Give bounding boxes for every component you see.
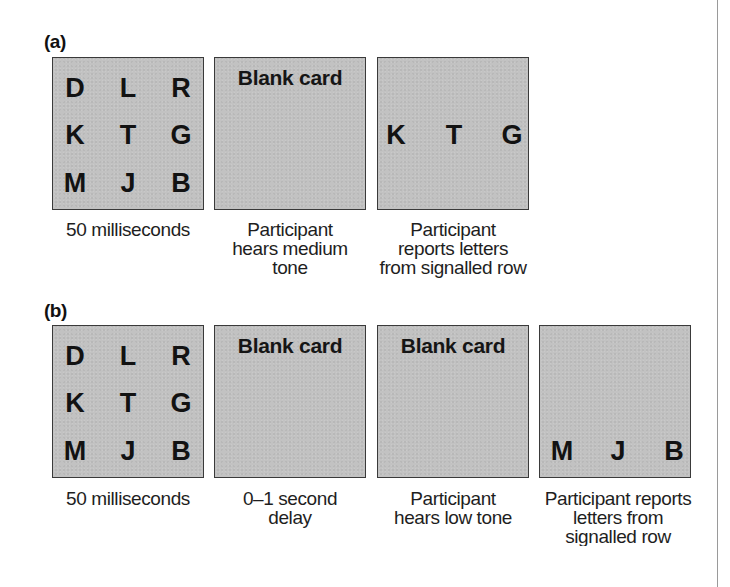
letter: G <box>169 120 193 150</box>
letter-row-top: D L R <box>63 341 193 371</box>
letter-row-bottom: M J B <box>63 168 193 198</box>
letter: G <box>169 388 193 418</box>
letter: L <box>116 341 140 371</box>
caption-delay: 0–1 second delay <box>204 489 376 527</box>
letter-row-bottom: M J B <box>63 436 193 466</box>
caption-line: signalled row <box>525 527 711 546</box>
reported-letter-row: K T G <box>384 120 524 150</box>
page-divider-line <box>717 0 718 587</box>
caption-low-tone: Participant hears low tone <box>367 489 539 527</box>
letter: R <box>169 341 193 371</box>
letter: D <box>63 73 87 103</box>
panel-label-a: (a) <box>44 31 66 53</box>
blank-card: Blank card <box>214 57 366 210</box>
caption-report: Participant reports letters from signall… <box>362 220 544 277</box>
caption-line: 50 milliseconds <box>52 220 204 239</box>
letter-array-card: D L R K T G M J B <box>52 325 204 478</box>
report-card: K T G <box>377 57 529 210</box>
panel-label-b: (b) <box>44 300 67 322</box>
letter: J <box>116 436 140 466</box>
caption-line: Participant <box>362 220 544 239</box>
letter: J <box>116 168 140 198</box>
letter-row-top: D L R <box>63 73 193 103</box>
letter: T <box>442 120 466 150</box>
caption-line: letters from <box>525 508 711 527</box>
letter: R <box>169 73 193 103</box>
letter: K <box>384 120 408 150</box>
letter: K <box>63 120 87 150</box>
caption-line: from signalled row <box>362 258 544 277</box>
caption-line: tone <box>204 258 376 277</box>
letter: B <box>662 436 686 466</box>
caption-line: reports letters <box>362 239 544 258</box>
caption-line: delay <box>204 508 376 527</box>
blank-card-title: Blank card <box>378 334 528 358</box>
letter: L <box>116 73 140 103</box>
letter-row-middle: K T G <box>63 120 193 150</box>
reported-letter-row: M J B <box>550 436 686 466</box>
letter: B <box>169 436 193 466</box>
report-card: M J B <box>539 325 691 478</box>
letter: T <box>116 120 140 150</box>
letter: M <box>550 436 574 466</box>
caption-line: Participant <box>367 489 539 508</box>
letter-row-middle: K T G <box>63 388 193 418</box>
letter-array-card: D L R K T G M J B <box>52 57 204 210</box>
letter: D <box>63 341 87 371</box>
caption-duration: 50 milliseconds <box>52 220 204 239</box>
caption-line: 50 milliseconds <box>52 489 204 508</box>
blank-card: Blank card <box>214 325 366 478</box>
caption-line: Participant reports <box>525 489 711 508</box>
letter: T <box>116 388 140 418</box>
caption-medium-tone: Participant hears medium tone <box>204 220 376 277</box>
caption-line: Participant <box>204 220 376 239</box>
caption-report: Participant reports letters from signall… <box>525 489 711 546</box>
letter: J <box>606 436 630 466</box>
letter: G <box>500 120 524 150</box>
blank-card: Blank card <box>377 325 529 478</box>
caption-line: hears medium <box>204 239 376 258</box>
letter: M <box>63 436 87 466</box>
caption-duration: 50 milliseconds <box>52 489 204 508</box>
letter: M <box>63 168 87 198</box>
caption-line: hears low tone <box>367 508 539 527</box>
blank-card-title: Blank card <box>215 334 365 358</box>
blank-card-title: Blank card <box>215 66 365 90</box>
caption-line: 0–1 second <box>204 489 376 508</box>
letter: B <box>169 168 193 198</box>
letter: K <box>63 388 87 418</box>
